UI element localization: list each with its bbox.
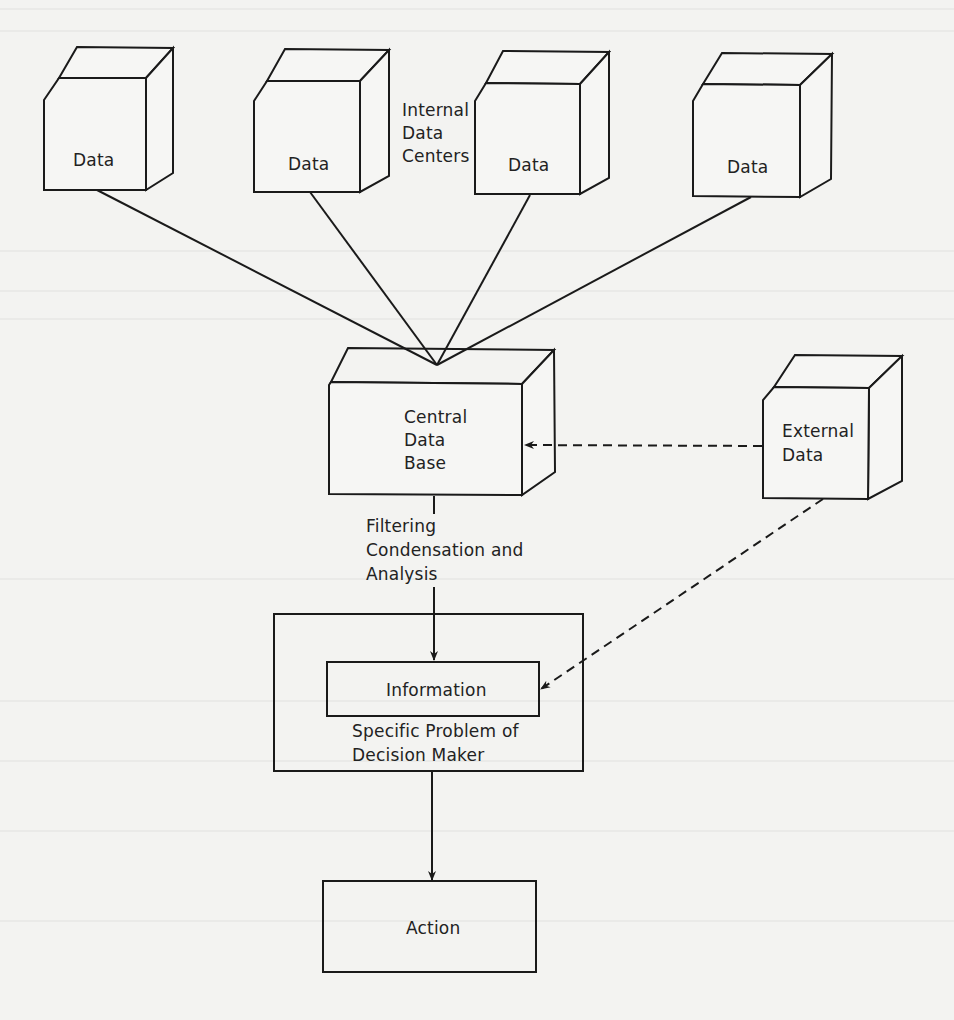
data-center-label-1: Data (73, 149, 114, 172)
diagram-lines (0, 0, 954, 1020)
diagram-canvas: Data Data Data Data Internal Data Center… (0, 0, 954, 1020)
data-center-label-3: Data (508, 154, 549, 177)
connector-lines (97, 190, 751, 365)
external-to-central-arrow (525, 445, 762, 446)
data-center-label-2: Data (288, 153, 329, 176)
action-label: Action (406, 917, 460, 940)
information-label: Information (386, 679, 487, 702)
data-center-label-4: Data (727, 156, 768, 179)
